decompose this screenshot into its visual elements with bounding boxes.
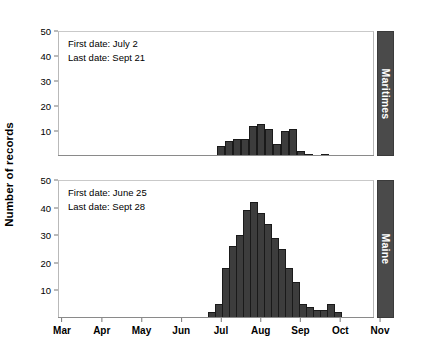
x-tick-label: Jun bbox=[172, 325, 190, 336]
x-tick-sep: Sep bbox=[291, 318, 309, 336]
strip-label-maritimes: Maritimes bbox=[377, 31, 394, 156]
y-axis-title: Number of records bbox=[0, 0, 18, 349]
y-tick-50: 50 bbox=[40, 26, 58, 37]
y-tick-20: 20 bbox=[40, 257, 58, 268]
x-tick-mark bbox=[380, 318, 381, 322]
x-tick-label: Mar bbox=[53, 325, 71, 336]
x-tick-mark bbox=[340, 318, 341, 322]
chart-figure: Number of records 1020304050 First date:… bbox=[0, 0, 435, 349]
x-tick-label: Nov bbox=[371, 325, 390, 336]
x-tick-mark bbox=[181, 318, 182, 322]
x-tick-mark bbox=[61, 318, 62, 322]
y-tick-mark bbox=[54, 131, 58, 132]
x-tick-mar: Mar bbox=[53, 318, 71, 336]
strip-label-maritimes-text: Maritimes bbox=[380, 68, 392, 119]
x-tick-jun: Jun bbox=[172, 318, 190, 336]
strip-label-maine-text: Maine bbox=[380, 234, 392, 265]
x-tick-aug: Aug bbox=[251, 318, 270, 336]
y-tick-30: 30 bbox=[40, 76, 58, 87]
y-tick-mark bbox=[54, 207, 58, 208]
x-tick-label: Jul bbox=[214, 325, 228, 336]
y-tick-label: 30 bbox=[40, 76, 51, 87]
x-tick-mark bbox=[220, 318, 221, 322]
x-tick-may: May bbox=[132, 318, 151, 336]
x-tick-label: Oct bbox=[332, 325, 349, 336]
y-tick-mark bbox=[54, 262, 58, 263]
x-tick-nov: Nov bbox=[371, 318, 390, 336]
panel-maritimes: 1020304050 First date: July 2 Last date:… bbox=[58, 31, 374, 156]
y-tick-label: 30 bbox=[40, 230, 51, 241]
y-tick-label: 20 bbox=[40, 257, 51, 268]
y-tick-20: 20 bbox=[40, 101, 58, 112]
y-tick-40: 40 bbox=[40, 51, 58, 62]
x-tick-oct: Oct bbox=[332, 318, 349, 336]
y-tick-40: 40 bbox=[40, 202, 58, 213]
annotation-last-date: Last date: Sept 21 bbox=[68, 51, 145, 65]
y-tick-label: 20 bbox=[40, 101, 51, 112]
y-tick-50: 50 bbox=[40, 175, 58, 186]
y-tick-mark bbox=[54, 31, 58, 32]
y-tick-10: 10 bbox=[40, 126, 58, 137]
y-tick-label: 50 bbox=[40, 175, 51, 186]
y-tick-label: 40 bbox=[40, 51, 51, 62]
x-tick-mark bbox=[101, 318, 102, 322]
y-tick-10: 10 bbox=[40, 285, 58, 296]
y-tick-label: 40 bbox=[40, 202, 51, 213]
y-tick-mark bbox=[54, 106, 58, 107]
x-tick-mark bbox=[141, 318, 142, 322]
x-tick-apr: Apr bbox=[93, 318, 110, 336]
panel-maritimes-annotation: First date: July 2 Last date: Sept 21 bbox=[68, 37, 145, 65]
x-axis-ticks: MarAprMayJunJulAugSepOctNov bbox=[58, 318, 374, 340]
annotation-last-date: Last date: Sept 28 bbox=[68, 200, 147, 214]
y-tick-mark bbox=[54, 290, 58, 291]
y-tick-label: 10 bbox=[40, 126, 51, 137]
x-tick-label: Sep bbox=[291, 325, 309, 336]
x-tick-jul: Jul bbox=[214, 318, 228, 336]
x-tick-mark bbox=[260, 318, 261, 322]
y-tick-mark bbox=[54, 81, 58, 82]
y-tick-mark bbox=[54, 235, 58, 236]
y-tick-label: 50 bbox=[40, 26, 51, 37]
y-tick-mark bbox=[54, 180, 58, 181]
panel-maine: 1020304050 First date: June 25 Last date… bbox=[58, 180, 374, 318]
x-tick-label: Apr bbox=[93, 325, 110, 336]
y-tick-label: 10 bbox=[40, 285, 51, 296]
y-tick-30: 30 bbox=[40, 230, 58, 241]
x-tick-label: Aug bbox=[251, 325, 270, 336]
annotation-first-date: First date: June 25 bbox=[68, 186, 147, 200]
panel-maine-annotation: First date: June 25 Last date: Sept 28 bbox=[68, 186, 147, 214]
annotation-first-date: First date: July 2 bbox=[68, 37, 145, 51]
panel-maritimes-baseline bbox=[58, 155, 374, 156]
x-tick-label: May bbox=[132, 325, 151, 336]
x-tick-mark bbox=[300, 318, 301, 322]
y-tick-mark bbox=[54, 56, 58, 57]
strip-label-maine: Maine bbox=[377, 180, 394, 318]
